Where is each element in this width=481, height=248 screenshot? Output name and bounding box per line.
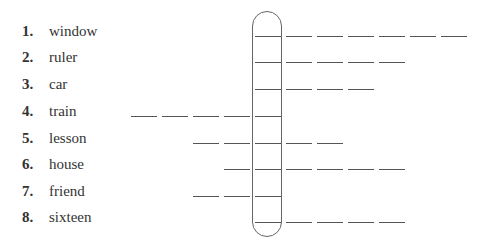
item-number: 6. [22, 156, 33, 173]
letter-blank[interactable] [348, 169, 374, 170]
column-letter-blank[interactable] [255, 36, 281, 37]
item-word: friend [49, 183, 85, 200]
letter-blank[interactable] [410, 36, 436, 37]
item-word: car [49, 76, 67, 93]
item-number: 8. [22, 209, 33, 226]
letter-blank[interactable] [348, 36, 374, 37]
column-letter-blank[interactable] [255, 196, 281, 197]
letter-blank[interactable] [286, 62, 312, 63]
letter-blank[interactable] [286, 222, 312, 223]
letter-blank[interactable] [193, 143, 219, 144]
item-number: 1. [22, 23, 33, 40]
item-word: sixteen [49, 209, 92, 226]
letter-blank[interactable] [131, 116, 157, 117]
column-letter-blank[interactable] [255, 169, 281, 170]
letter-blank[interactable] [348, 89, 374, 90]
letter-blank[interactable] [379, 222, 405, 223]
letter-blank[interactable] [193, 116, 219, 117]
column-letter-blank[interactable] [255, 62, 281, 63]
item-word: train [49, 103, 77, 120]
letter-blank[interactable] [348, 222, 374, 223]
letter-blank[interactable] [379, 169, 405, 170]
letter-blank[interactable] [286, 89, 312, 90]
item-word: lesson [49, 130, 87, 147]
letter-blank[interactable] [317, 36, 343, 37]
letter-blank[interactable] [317, 89, 343, 90]
letter-blank[interactable] [317, 222, 343, 223]
item-number: 4. [22, 103, 33, 120]
letter-blank[interactable] [286, 169, 312, 170]
item-number: 3. [22, 76, 33, 93]
letter-blank[interactable] [286, 143, 312, 144]
column-letter-blank[interactable] [255, 222, 281, 223]
column-letter-blank[interactable] [255, 116, 281, 117]
item-number: 5. [22, 130, 33, 147]
letter-blank[interactable] [193, 196, 219, 197]
letter-blank[interactable] [224, 116, 250, 117]
answer-column [252, 11, 282, 237]
letter-blank[interactable] [224, 196, 250, 197]
item-word: ruler [49, 49, 77, 66]
letter-blank[interactable] [317, 143, 343, 144]
letter-blank[interactable] [224, 143, 250, 144]
item-word: window [49, 23, 97, 40]
letter-blank[interactable] [317, 62, 343, 63]
column-letter-blank[interactable] [255, 89, 281, 90]
letter-blank[interactable] [441, 36, 467, 37]
letter-blank[interactable] [224, 169, 250, 170]
letter-blank[interactable] [286, 36, 312, 37]
item-word: house [49, 156, 84, 173]
item-number: 2. [22, 49, 33, 66]
letter-blank[interactable] [348, 62, 374, 63]
letter-blank[interactable] [317, 169, 343, 170]
column-letter-blank[interactable] [255, 143, 281, 144]
letter-blank[interactable] [379, 62, 405, 63]
letter-blank[interactable] [379, 36, 405, 37]
letter-blank[interactable] [162, 116, 188, 117]
item-number: 7. [22, 183, 33, 200]
